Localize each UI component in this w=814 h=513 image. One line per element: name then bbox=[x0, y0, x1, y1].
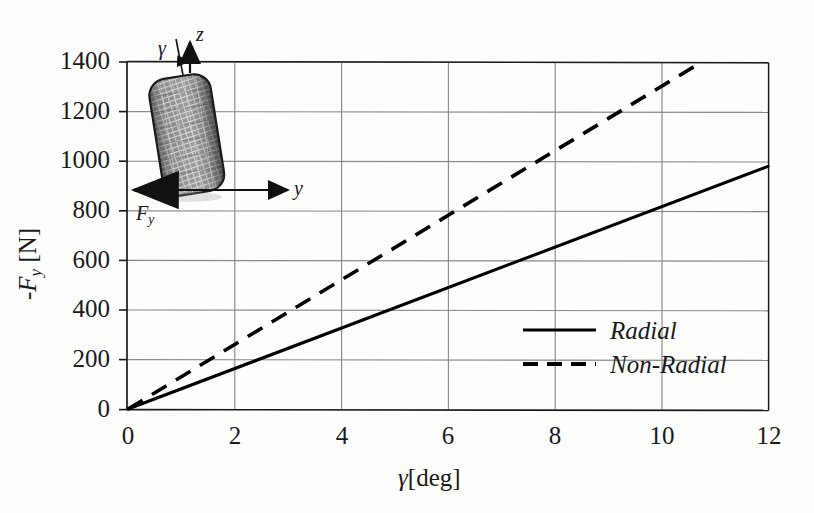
y-axis-title: -Fy [N] bbox=[14, 228, 46, 300]
inset-force-label: Fy bbox=[136, 203, 154, 226]
x-tick-label-12: 12 bbox=[749, 423, 789, 448]
inset-gamma-label: γ bbox=[158, 38, 166, 58]
y-tick-label-800: 800 bbox=[36, 197, 110, 222]
inset-force-subscript: y bbox=[148, 212, 154, 227]
inset-tire-diagram bbox=[134, 39, 288, 202]
y-axis-title-unit: [N] bbox=[14, 228, 41, 263]
inset-force-symbol: F bbox=[136, 202, 148, 224]
y-tick-label-200: 200 bbox=[36, 346, 110, 371]
y-tick-label-0: 0 bbox=[36, 396, 110, 421]
x-tick-label-2: 2 bbox=[215, 423, 255, 448]
x-tick-label-4: 4 bbox=[322, 423, 362, 448]
x-axis-title-unit: [deg] bbox=[408, 464, 461, 491]
inset-z-label: z bbox=[196, 24, 204, 44]
x-tick-label-6: 6 bbox=[428, 423, 468, 448]
y-tick-label-1000: 1000 bbox=[36, 147, 110, 172]
legend-label-radial: Radial bbox=[610, 318, 677, 343]
y-tick-label-1200: 1200 bbox=[36, 98, 110, 123]
x-tick-label-8: 8 bbox=[535, 423, 575, 448]
legend-label-non-radial: Non-Radial bbox=[610, 352, 727, 377]
figure-canvas: 1400 1200 1000 800 600 400 200 0 0 2 4 6… bbox=[0, 0, 814, 513]
inset-y-label: y bbox=[294, 178, 303, 198]
y-tick-label-600: 600 bbox=[36, 247, 110, 272]
y-axis-title-symbol: F bbox=[14, 276, 41, 291]
y-tick-label-1400: 1400 bbox=[36, 48, 110, 73]
y-axis-title-subscript: y bbox=[26, 269, 45, 277]
grid-vertical bbox=[235, 62, 662, 410]
x-axis-title: γ[deg] bbox=[398, 465, 461, 490]
y-axis-title-prefix: - bbox=[14, 292, 41, 300]
grid-horizontal bbox=[127, 62, 768, 360]
y-tick-marks bbox=[119, 62, 127, 410]
x-tick-label-0: 0 bbox=[108, 423, 148, 448]
x-tick-label-10: 10 bbox=[642, 423, 682, 448]
x-axis-title-symbol: γ bbox=[398, 464, 408, 491]
y-tick-label-400: 400 bbox=[36, 296, 110, 321]
